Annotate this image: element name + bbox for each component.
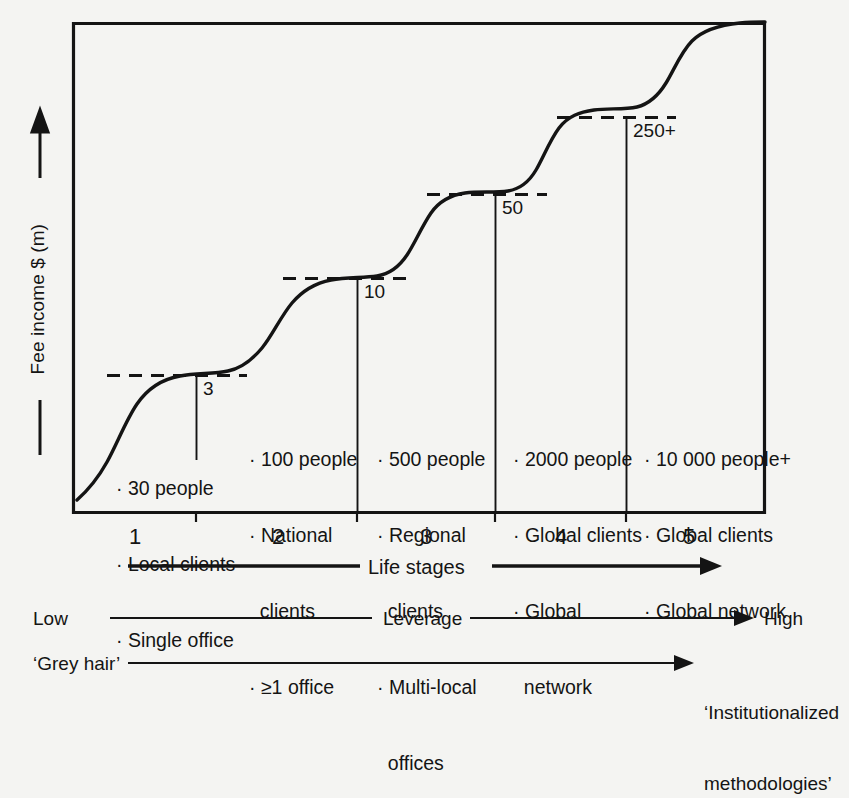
- x-tick-label-3: 3: [406, 524, 446, 550]
- institutionalized-label-line1: ‘Institutionalized: [704, 701, 849, 725]
- y-axis-up-arrow-icon: [32, 110, 48, 132]
- stage-bullets-2: · 100 people · National clients · ≥1 off…: [249, 396, 357, 751]
- x-tick-label-1: 1: [115, 524, 155, 550]
- leverage-center-label: Leverage: [383, 608, 462, 630]
- stage-bullet: · 30 people: [116, 476, 235, 501]
- stage-bullet: · 500 people: [377, 447, 485, 472]
- institutionalized-label: ‘Institutionalized methodologies’: [704, 653, 849, 798]
- stage-bullet: · ≥1 office: [249, 675, 357, 700]
- plateau-label-4: 250+: [633, 120, 676, 142]
- stage-bullet: network: [513, 675, 642, 700]
- plateau-label-3: 50: [502, 197, 523, 219]
- plateau-label-2: 10: [364, 281, 385, 303]
- grey-hair-label: ‘Grey hair’: [33, 653, 120, 675]
- stage-bullet: · Local clients: [116, 552, 235, 577]
- stage-bullet: · 100 people: [249, 447, 357, 472]
- leverage-low-label: Low: [33, 608, 68, 630]
- stage-bullet: clients: [249, 599, 357, 624]
- stage-bullet: · Single office: [116, 628, 235, 653]
- stage-bullets-5: · 10 000 people+ · Global clients · Glob…: [644, 396, 791, 675]
- x-tick-label-4: 4: [541, 524, 581, 550]
- stage-bullets-1: · 30 people · Local clients · Single off…: [116, 425, 235, 704]
- life-stages-label: Life stages: [368, 556, 465, 580]
- stage-bullet: · 10 000 people+: [644, 447, 791, 472]
- stage-bullet: · Global clients: [644, 523, 791, 548]
- x-tick-label-5: 5: [669, 524, 709, 550]
- y-axis-label: Fee income $ (m): [27, 169, 49, 429]
- stage-bullet: · Multi-local: [377, 675, 485, 700]
- plateau-dashed-lines: [107, 118, 676, 376]
- leverage-high-label: High: [764, 608, 803, 630]
- stage-bullet: offices: [377, 751, 485, 776]
- stage-bullet: · 2000 people: [513, 447, 642, 472]
- institutionalized-label-line2: methodologies’: [704, 772, 849, 796]
- stage-bullet: · Global: [513, 599, 642, 624]
- x-tick-label-2: 2: [258, 524, 298, 550]
- stage-bullets-3: · 500 people · Regional clients · Multi-…: [377, 396, 485, 798]
- stage-bullets-4: · 2000 people · Global clients · Global …: [513, 396, 642, 751]
- plateau-label-1: 3: [203, 378, 214, 400]
